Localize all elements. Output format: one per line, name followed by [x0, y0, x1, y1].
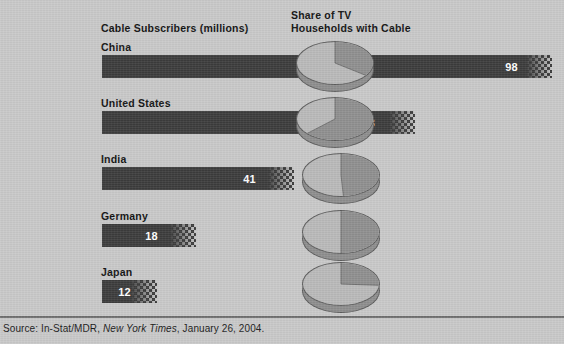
bar-dither-end	[389, 111, 415, 134]
source-suffix: , January 26, 2004.	[177, 323, 265, 334]
country-label: United States	[101, 97, 171, 109]
bar-cable-subscribers: 41	[102, 167, 294, 190]
pie-share-of-tv-households	[302, 153, 380, 205]
bar-cable-subscribers: 12	[102, 280, 157, 303]
bar-cable-subscribers: 18	[102, 224, 196, 247]
column-header-cable-subscribers: Cable Subscribers (millions)	[101, 22, 248, 35]
country-label: China	[101, 41, 131, 53]
pie-face	[296, 97, 374, 141]
country-label: Japan	[101, 266, 132, 278]
country-label: India	[101, 153, 127, 165]
column-header-share-of-tv-households: Share of TV Households with Cable	[291, 9, 411, 34]
pie-face	[302, 153, 380, 197]
bar-dither-end	[268, 167, 294, 190]
source-publication: New York Times	[103, 323, 177, 334]
bar-value-label: 41	[243, 173, 256, 185]
pie-share-of-tv-households	[302, 262, 380, 314]
cable-subscribers-chart: Cable Subscribers (millions) Share of TV…	[0, 0, 564, 344]
country-label: Germany	[101, 210, 148, 222]
bar-value-label: 18	[145, 230, 158, 242]
pie-face	[296, 41, 374, 85]
footer-divider	[0, 316, 564, 318]
pie-share-of-tv-households	[296, 97, 374, 149]
bar-value-label: 98	[505, 61, 518, 73]
source-note: Source: In-Stat/MDR, New York Times, Jan…	[3, 323, 264, 334]
bar-dither-end	[131, 280, 157, 303]
bar-value-label: 12	[118, 286, 131, 298]
pie-share-of-tv-households	[296, 41, 374, 93]
pie-face	[302, 262, 380, 306]
bar-dither-end	[526, 55, 552, 78]
pie-face	[302, 210, 380, 254]
bar-dither-end	[170, 224, 196, 247]
source-prefix: Source: In-Stat/MDR,	[3, 323, 103, 334]
pie-share-of-tv-households	[302, 210, 380, 262]
